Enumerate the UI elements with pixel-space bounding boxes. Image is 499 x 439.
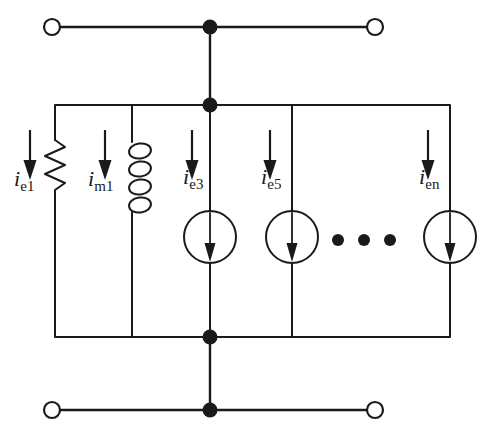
arrow-ie3-icon — [186, 130, 199, 180]
circuit-diagram-figure: ie1 im1 ie3 ie5 ien — [0, 0, 499, 439]
branch-resistor — [45, 105, 65, 337]
arrow-ien-icon — [422, 130, 435, 180]
terminal-top-right — [367, 19, 383, 35]
junction-bottom-rail — [203, 330, 218, 345]
arrow-ie1-icon — [24, 130, 37, 180]
circuit-schematic-canvas — [0, 0, 499, 439]
junction-top-rail — [203, 98, 218, 113]
resistor-zigzag-icon — [45, 140, 65, 196]
ellipsis-dot-1 — [332, 234, 344, 246]
terminal-bottom-right — [367, 402, 383, 418]
network-rails — [55, 105, 450, 337]
ellipsis-dot-3 — [384, 234, 396, 246]
terminal-top-left — [44, 19, 60, 35]
current-direction-arrows — [24, 130, 435, 180]
ellipsis-dot-2 — [358, 234, 370, 246]
arrow-im1-icon — [99, 130, 112, 180]
terminal-bottom-left — [44, 402, 60, 418]
branch-inductor — [128, 105, 152, 337]
inductor-coil-icon — [128, 142, 152, 214]
junction-top-port — [203, 20, 218, 35]
branch-source-ien — [424, 105, 476, 337]
junction-bottom-port — [203, 403, 218, 418]
arrow-ie5-icon — [264, 130, 277, 180]
ellipsis-dots — [332, 234, 396, 246]
branch-source-ie5 — [266, 105, 318, 337]
